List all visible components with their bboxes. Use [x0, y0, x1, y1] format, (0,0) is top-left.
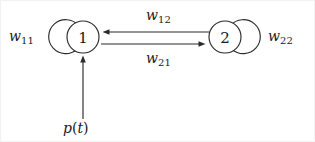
edge-arrowhead-w21: [199, 41, 206, 47]
node-label-2: 2: [220, 29, 230, 47]
weight-label-w11: w11: [9, 29, 34, 46]
weight-label-w22: w22: [268, 29, 293, 46]
edge-w21: [101, 41, 206, 47]
weight-label-w22-base: w: [268, 28, 280, 44]
edge-w12: [103, 29, 210, 35]
weight-label-w12: w12: [146, 8, 171, 25]
weight-label-w11-subscript: 11: [21, 35, 34, 46]
weight-label-w21-base: w: [146, 50, 158, 66]
node-label-1: 1: [78, 29, 88, 47]
weight-label-w12-subscript: 12: [158, 14, 171, 25]
input-label-pt-close-paren: ): [83, 120, 88, 136]
input-arrow-pt: [80, 56, 86, 120]
edge-arrowhead-w12: [103, 29, 110, 35]
weight-label-w11-base: w: [9, 28, 21, 44]
weight-label-w12-base: w: [146, 7, 158, 23]
input-label-pt: p(t): [63, 121, 89, 135]
input-label-pt-var: p: [63, 120, 72, 136]
diagram-canvas: 1 2 w11 w22 w12 w21 p(t): [0, 0, 315, 142]
weight-label-w21-subscript: 21: [158, 57, 171, 68]
weight-label-w22-subscript: 22: [280, 35, 293, 46]
weight-label-w21: w21: [146, 51, 171, 68]
input-arrowhead-pt: [80, 56, 86, 63]
